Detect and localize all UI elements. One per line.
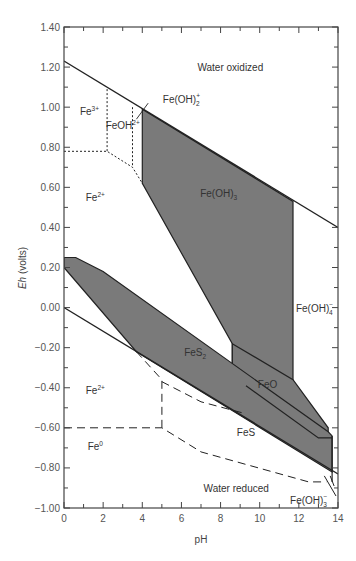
- fe3-fe2-boundary: [64, 151, 142, 183]
- y-axis-title-unit: (volts): [17, 247, 28, 277]
- y-tick-label: 0.40: [41, 222, 61, 233]
- label-fes: FeS: [237, 427, 256, 438]
- label-water-oxidized: Water oxidized: [197, 62, 263, 73]
- y-tick-label: −0.80: [35, 462, 61, 473]
- y-tick-label: −0.20: [35, 342, 61, 353]
- x-tick-label: 14: [332, 513, 344, 524]
- y-tick-label: 0.80: [41, 142, 61, 153]
- label-fe-oh-4ion: Fe(OH)−4: [296, 301, 333, 316]
- y-axis-title-italic: Eh: [17, 276, 28, 289]
- y-tick-label: −0.60: [35, 422, 61, 433]
- label-water-reduced: Water reduced: [204, 483, 269, 494]
- x-tick-label: 10: [254, 513, 266, 524]
- x-tick-label: 4: [140, 513, 146, 524]
- y-tick-label: 1.00: [41, 102, 61, 113]
- label-feion: Fe2+: [86, 384, 105, 396]
- y-tick-label: −0.40: [35, 382, 61, 393]
- y-tick-label: 0.60: [41, 182, 61, 193]
- label-feion: Fe2+: [86, 191, 105, 203]
- x-tick-label: 12: [293, 513, 305, 524]
- label-feo: FeO: [258, 379, 278, 390]
- label-feion: Fe3+: [80, 105, 99, 117]
- label-fe-oh-2ion: Fe(OH)+2: [163, 92, 200, 107]
- label-feion: Fe0: [88, 440, 104, 452]
- y-tick-label: 1.20: [41, 62, 61, 73]
- x-tick-label: 8: [218, 513, 224, 524]
- label-fe-oh-3ion: Fe(OH)−3: [290, 493, 327, 508]
- shaded-regions: [64, 109, 332, 472]
- y-tick-label: 0.20: [41, 262, 61, 273]
- x-axis-title: pH: [195, 534, 208, 545]
- x-tick-label: 6: [179, 513, 185, 524]
- y-tick-label: 1.40: [41, 22, 61, 33]
- x-tick-label: 2: [100, 513, 106, 524]
- eh-ph-diagram: 024681012141.401.201.000.800.600.400.200…: [0, 0, 356, 561]
- y-tick-label: 0.00: [41, 302, 61, 313]
- y-tick-label: −1.00: [35, 503, 61, 514]
- y-axis-title: Eh (volts): [17, 247, 28, 289]
- x-tick-label: 0: [61, 513, 67, 524]
- label-feohion: FeOH2+: [106, 119, 140, 131]
